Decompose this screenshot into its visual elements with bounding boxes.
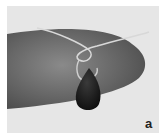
figure-panel: a — [0, 0, 163, 139]
panel-label: a — [145, 117, 152, 130]
photo — [7, 6, 159, 133]
finger-wire-bead-illustration — [7, 6, 159, 133]
